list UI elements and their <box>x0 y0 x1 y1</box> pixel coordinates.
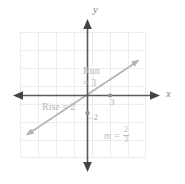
slope-equals-sign: = <box>114 130 120 141</box>
x-axis-arrow-left <box>13 91 23 100</box>
y-axis-label: y <box>93 3 98 15</box>
slope-denominator: 3 <box>123 136 129 144</box>
slope-numerator: 2 <box>123 126 129 134</box>
line-arrow-upper-right <box>131 60 139 67</box>
x-axis-label: x <box>166 87 171 99</box>
x-tick-label-3: 3 <box>110 97 115 107</box>
run-annotation-line2: = 3 <box>83 78 100 89</box>
graph-canvas <box>0 0 185 184</box>
slope-equation: m = 2 3 <box>104 126 129 144</box>
slope-fraction: 2 3 <box>123 126 129 144</box>
run-annotation-line1: Run <box>83 65 100 76</box>
coordinate-plane-figure: Run = 3 Rise = 2 y x 3 –2 m = 2 3 <box>0 0 185 184</box>
rise-annotation: Rise = 2 <box>42 102 75 113</box>
x-axis-arrow-right <box>150 91 160 100</box>
y-axis-arrow-top <box>83 19 92 29</box>
line-arrow-lower-left <box>26 128 35 135</box>
x-axis <box>13 91 160 100</box>
y-tick-label-minus-2: –2 <box>89 112 98 122</box>
slope-variable: m <box>104 130 111 141</box>
y-axis-arrow-bottom <box>83 162 92 172</box>
run-annotation: Run = 3 <box>83 66 100 88</box>
